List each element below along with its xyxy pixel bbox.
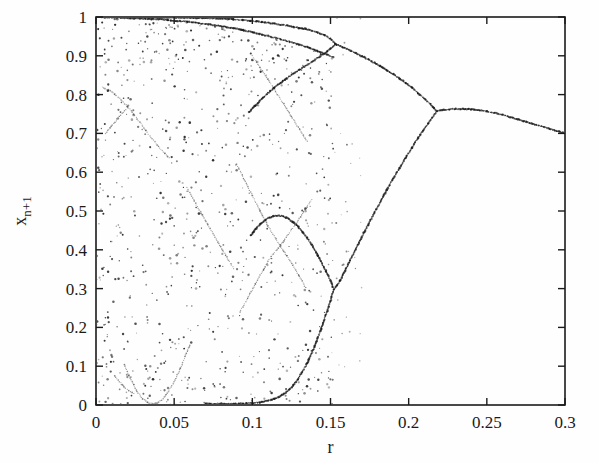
data-point bbox=[127, 70, 129, 72]
data-point bbox=[208, 318, 210, 320]
data-point bbox=[250, 175, 253, 178]
data-point bbox=[236, 61, 238, 63]
data-point bbox=[293, 294, 295, 296]
branch-point bbox=[309, 201, 311, 203]
data-point bbox=[239, 154, 240, 155]
data-point bbox=[326, 63, 327, 64]
branch-point bbox=[256, 282, 257, 283]
data-point bbox=[268, 319, 270, 321]
data-point bbox=[302, 126, 304, 128]
data-point bbox=[251, 45, 254, 48]
branch-point bbox=[276, 240, 277, 241]
data-point bbox=[138, 176, 140, 178]
data-point bbox=[341, 214, 342, 215]
data-point bbox=[179, 121, 181, 123]
data-point bbox=[210, 252, 212, 254]
branch-point bbox=[290, 261, 291, 262]
data-point bbox=[116, 70, 119, 73]
branch-point bbox=[111, 124, 113, 126]
data-point bbox=[152, 293, 153, 294]
branch-point bbox=[280, 244, 282, 246]
branch-point bbox=[146, 131, 147, 132]
data-point bbox=[123, 156, 125, 158]
branch-point bbox=[260, 212, 261, 213]
branch-point bbox=[185, 352, 187, 354]
data-point bbox=[194, 388, 196, 390]
data-point bbox=[120, 232, 122, 234]
data-point bbox=[162, 43, 164, 45]
data-point bbox=[162, 211, 164, 213]
branch-point bbox=[200, 211, 202, 213]
data-point bbox=[106, 378, 108, 380]
y-tick-label: 0.2 bbox=[66, 318, 87, 337]
branch-point bbox=[493, 112, 495, 114]
data-point bbox=[204, 390, 205, 391]
data-point bbox=[328, 386, 330, 388]
branch-point bbox=[262, 215, 264, 217]
branch-point bbox=[191, 196, 192, 197]
branch-point bbox=[189, 21, 191, 23]
branch-point bbox=[115, 376, 117, 378]
data-point bbox=[310, 206, 311, 207]
data-point bbox=[272, 57, 275, 60]
data-point bbox=[314, 101, 316, 103]
data-point bbox=[190, 187, 192, 189]
data-point bbox=[184, 197, 185, 198]
branch-point bbox=[253, 57, 254, 58]
branch-point bbox=[298, 274, 300, 276]
branch-point bbox=[124, 364, 126, 366]
data-point bbox=[125, 155, 126, 156]
branch-point bbox=[303, 282, 304, 283]
branch-point bbox=[379, 202, 380, 203]
data-point bbox=[214, 386, 216, 388]
data-point bbox=[289, 321, 291, 323]
branch-point bbox=[267, 79, 268, 80]
data-point bbox=[302, 389, 304, 391]
branch-point bbox=[284, 238, 286, 240]
branch-point bbox=[120, 99, 121, 100]
data-point bbox=[232, 32, 233, 33]
branch-point bbox=[129, 377, 131, 379]
data-point bbox=[285, 59, 287, 61]
data-point bbox=[310, 388, 312, 390]
data-point bbox=[330, 71, 331, 72]
data-point bbox=[151, 78, 153, 80]
data-point bbox=[99, 66, 100, 67]
data-point bbox=[253, 48, 255, 50]
data-point bbox=[223, 88, 225, 90]
y-tick-label: 0.5 bbox=[66, 202, 87, 221]
data-point bbox=[139, 24, 140, 25]
data-point bbox=[105, 139, 106, 140]
data-point bbox=[111, 258, 113, 260]
data-point bbox=[344, 366, 345, 367]
data-point bbox=[352, 143, 353, 144]
data-point bbox=[118, 155, 120, 157]
branch-point bbox=[248, 296, 250, 298]
data-point bbox=[156, 197, 158, 199]
data-point bbox=[187, 379, 189, 381]
data-point bbox=[134, 214, 136, 216]
branch-point bbox=[133, 114, 135, 116]
data-point bbox=[122, 333, 124, 335]
data-point bbox=[346, 144, 348, 146]
data-point bbox=[259, 135, 261, 137]
data-point bbox=[140, 40, 141, 41]
data-point bbox=[176, 348, 177, 349]
branch-point bbox=[212, 231, 213, 232]
data-point bbox=[142, 393, 144, 395]
branch-point bbox=[252, 290, 253, 291]
branch-point bbox=[156, 143, 157, 144]
branch-point bbox=[175, 378, 176, 379]
data-point bbox=[185, 141, 187, 143]
data-point bbox=[102, 376, 103, 377]
data-point bbox=[111, 241, 113, 243]
data-point bbox=[169, 42, 171, 44]
data-point bbox=[131, 395, 133, 397]
data-point bbox=[242, 280, 243, 281]
data-point bbox=[337, 299, 339, 301]
data-point bbox=[209, 40, 211, 42]
branch-point bbox=[266, 77, 268, 79]
data-point bbox=[169, 218, 171, 220]
branch-point bbox=[209, 228, 210, 229]
branch-point bbox=[275, 91, 276, 92]
